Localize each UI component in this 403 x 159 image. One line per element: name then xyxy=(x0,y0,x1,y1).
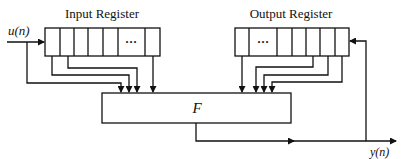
input-ellipsis: ··· xyxy=(125,35,137,49)
output-register-label: Output Register xyxy=(250,6,333,21)
output-ellipsis: ··· xyxy=(257,35,269,49)
input-signal-label: u(n) xyxy=(8,23,30,38)
output-signal-label: y(n) xyxy=(369,145,389,159)
input-register: ··· xyxy=(45,28,160,56)
function-label: F xyxy=(191,100,202,116)
feedback-arrow xyxy=(350,41,366,141)
output-register: ··· xyxy=(235,28,349,56)
narx-diagram: Input Register Output Register u(n) ··· … xyxy=(0,0,403,159)
output-taps xyxy=(242,56,342,92)
input-register-label: Input Register xyxy=(65,6,140,21)
